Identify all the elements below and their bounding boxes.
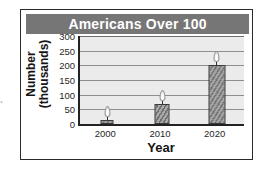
x-tick-label: 2000 bbox=[95, 128, 116, 139]
chart-figure: Americans Over 100 Number (thousands) 05… bbox=[20, 9, 253, 160]
candle-flame-icon bbox=[214, 51, 220, 62]
x-tick-label: 2010 bbox=[149, 128, 170, 139]
candle-flame-icon bbox=[104, 106, 110, 117]
y-tick-label: 100 bbox=[49, 89, 75, 100]
y-tick-label: 200 bbox=[49, 60, 75, 71]
x-axis-label: Year bbox=[78, 140, 244, 155]
y-tick-label: 150 bbox=[49, 75, 75, 86]
y-axis-tick-labels: 050100150200250300 bbox=[49, 36, 75, 126]
candle-body bbox=[101, 120, 114, 124]
y-tick-label: 0 bbox=[49, 119, 75, 130]
y-tick-label: 50 bbox=[49, 104, 75, 115]
bar-candle bbox=[155, 88, 170, 124]
y-tick-label: 300 bbox=[49, 31, 75, 42]
x-tick-label: 2020 bbox=[204, 128, 225, 139]
chart-title: Americans Over 100 bbox=[68, 16, 206, 32]
candle-body bbox=[155, 104, 170, 124]
candle-flame-icon bbox=[159, 90, 165, 101]
page-edge-artifact: · bbox=[0, 96, 9, 138]
candle-body bbox=[208, 65, 225, 124]
gridline bbox=[80, 36, 244, 37]
bar-candle bbox=[101, 104, 114, 124]
y-tick-label: 250 bbox=[49, 45, 75, 56]
plot-area bbox=[78, 36, 244, 126]
bar-candle bbox=[208, 49, 225, 124]
